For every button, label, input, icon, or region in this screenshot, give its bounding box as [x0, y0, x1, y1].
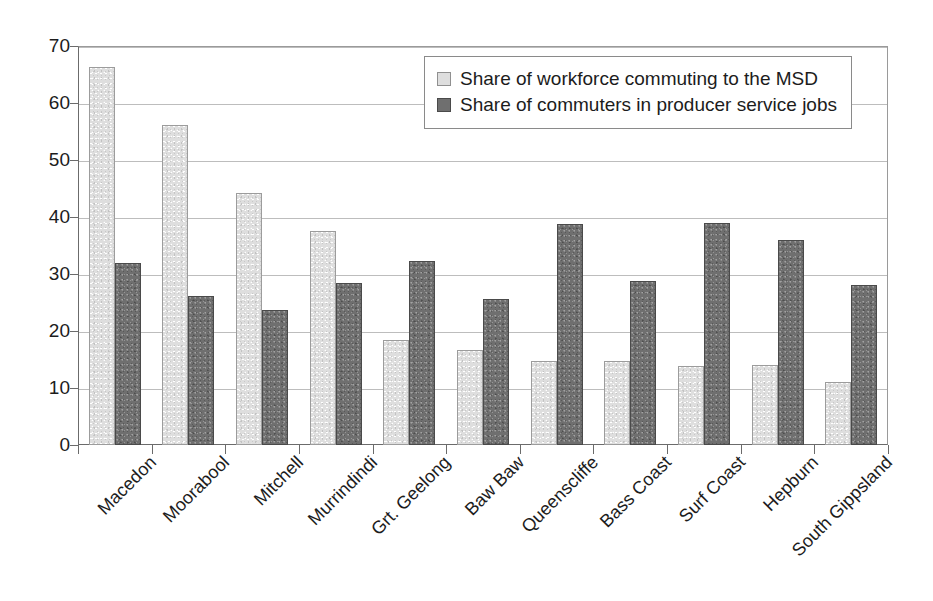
legend-entry-label: Share of workforce commuting to the MSD: [460, 68, 818, 90]
bar-group: [152, 46, 226, 445]
y-axis-tick-label: 40: [12, 207, 70, 226]
bar[interactable]: [483, 299, 509, 445]
bar[interactable]: [89, 67, 115, 445]
x-axis-category-label: Surf Coast: [675, 452, 749, 526]
x-axis-tick-mark: [888, 445, 889, 454]
bar[interactable]: [531, 361, 557, 445]
bar[interactable]: [236, 193, 262, 446]
bar[interactable]: [188, 296, 214, 445]
x-axis-labels: MacedonMooraboolMitchellMurrindindiGrt. …: [78, 452, 888, 592]
bar[interactable]: [557, 224, 583, 445]
y-axis-tick-label: 30: [12, 264, 70, 283]
y-axis-tick-label: 50: [12, 150, 70, 169]
bar[interactable]: [383, 340, 409, 445]
x-axis-category-label: Baw Baw: [461, 452, 528, 519]
bar[interactable]: [825, 382, 851, 445]
bar[interactable]: [336, 283, 362, 445]
legend-entry-workforce-commuting[interactable]: Share of workforce commuting to the MSD: [437, 66, 837, 92]
bar[interactable]: [704, 223, 730, 445]
bar[interactable]: [310, 231, 336, 445]
x-axis-category-label: Macedon: [93, 452, 160, 519]
legend-entry-label: Share of commuters in producer service j…: [460, 94, 837, 116]
bar[interactable]: [115, 263, 141, 445]
legend-entry-producer-service-jobs[interactable]: Share of commuters in producer service j…: [437, 92, 837, 118]
bar[interactable]: [752, 365, 778, 445]
y-axis-tick-label: 60: [12, 93, 70, 112]
y-axis-tick-label: 20: [12, 321, 70, 340]
x-axis-category-label: Mitchell: [250, 452, 307, 509]
bar[interactable]: [409, 261, 435, 445]
bar[interactable]: [678, 366, 704, 445]
bar[interactable]: [262, 310, 288, 445]
x-axis-category-label: Murrindindi: [304, 452, 381, 529]
dark-gray-swatch-icon: [437, 98, 451, 112]
light-gray-swatch-icon: [437, 72, 451, 86]
bar-chart-figure: 010203040506070 MacedonMooraboolMitchell…: [0, 0, 933, 601]
x-axis-category-label: Bass Coast: [596, 452, 675, 531]
bar[interactable]: [630, 281, 656, 445]
x-axis-category-label: Hepburn: [760, 452, 823, 515]
x-axis-category-label: Moorabool: [159, 452, 233, 526]
x-axis-category-label: Queenscliffe: [517, 452, 602, 537]
y-axis: 010203040506070: [0, 46, 70, 445]
bar-group: [78, 46, 152, 445]
y-axis-tick-label: 70: [12, 36, 70, 55]
y-axis-tick-label: 10: [12, 378, 70, 397]
y-axis-tick-label: 0: [12, 435, 70, 454]
chart-legend: Share of workforce commuting to the MSD …: [424, 56, 852, 129]
bar[interactable]: [778, 240, 804, 445]
bar[interactable]: [851, 285, 877, 445]
bar-group: [225, 46, 299, 445]
bar[interactable]: [162, 125, 188, 445]
bar[interactable]: [457, 350, 483, 445]
bar[interactable]: [604, 361, 630, 445]
bar-group: [299, 46, 373, 445]
